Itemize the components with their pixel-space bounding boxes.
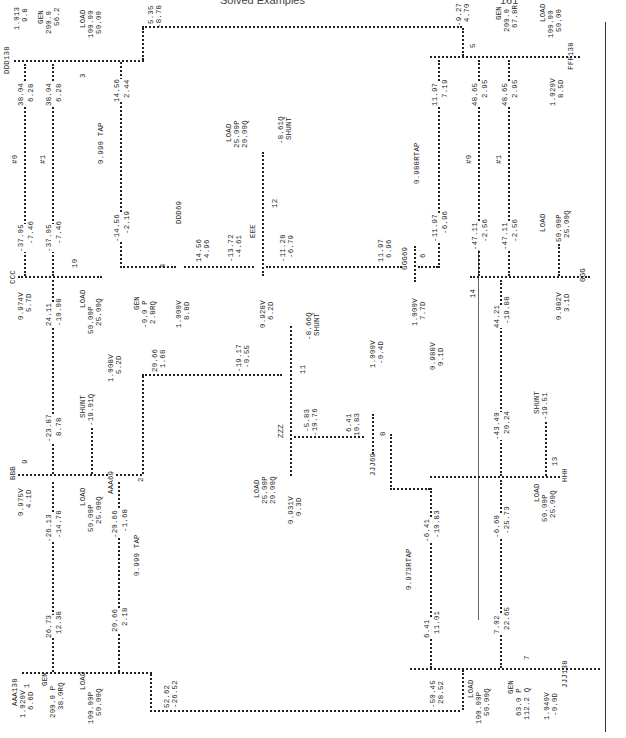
flow-jjj-hhh-p: 7.02 <box>494 615 502 634</box>
flow-zzz-aaa69-q: -0.55 <box>244 345 252 368</box>
shunt-bbb-q: -19.01Q <box>88 394 96 426</box>
bus-jjj138-name: JJJ138 <box>562 660 570 688</box>
load-ggg-line <box>558 244 562 276</box>
line-jjj69-rtap-h <box>390 434 394 490</box>
flow-ccc-bbb-p: 24.11 <box>46 303 54 326</box>
flow-ddd-ccc1-q: 6.28 <box>56 83 64 102</box>
flow-fff-ggg0-p: 48.65 <box>472 83 480 106</box>
bus-ddd138-no: 3 <box>80 73 88 78</box>
flow-hhh-jjj-p: -6.60 <box>494 515 502 538</box>
flow-eee-ggg-q: -6.79 <box>288 235 296 258</box>
bus-aaa138-no: 1 <box>24 683 32 688</box>
load-aaa-q: 50.00Q <box>96 688 104 716</box>
bus-jjj69-name: JJJ69 <box>370 453 378 476</box>
bus-ggg-angle: 3.1D <box>564 293 572 312</box>
flow-aaa-bbb-p: 26.73 <box>46 615 54 638</box>
flow-aaa69-tap-p: -20.66 <box>112 510 120 538</box>
flow-rtap-ggg-q: 7.19 <box>442 79 450 98</box>
flow-hhh-ggg-q: 20.24 <box>504 411 512 434</box>
bus-hhh-name: HHH <box>562 468 570 482</box>
line-ccc-ddd-1-tag: #1 <box>40 155 48 164</box>
bus-zzz-bar <box>290 326 294 476</box>
flow-ccc-ddd1-q: -7.46 <box>56 221 64 244</box>
bus-eee-name: EEE <box>250 224 258 238</box>
flow-ggg-fff0-q: -2.56 <box>482 219 490 242</box>
flow-fff-ddd-q: 4.70 <box>464 3 472 22</box>
line-jjj138-aaa-h <box>462 670 466 710</box>
load-aaa-label: LOAD <box>80 671 88 690</box>
bus-jjj138-no: 7 <box>524 655 532 660</box>
line-jjj69-rtap-v <box>390 486 430 490</box>
bus-ccc-name: CCC <box>10 270 18 284</box>
bus-aaa69-angle: 5.2D <box>116 355 124 374</box>
bus-jjj138-bar <box>410 666 600 670</box>
flow-ggg-fff1-p: -47.11 <box>502 222 510 250</box>
flow-aaa69-zzz-q: 1.68 <box>160 349 168 368</box>
flow-ddd69-eee-q: 4.96 <box>204 239 212 258</box>
flow-aaa69-tap-q: -1.68 <box>122 509 130 532</box>
flow-aaa-tap-q: 2.18 <box>122 607 130 626</box>
flow-ggg-hhh-q: -19.88 <box>504 296 512 324</box>
load-fff-q: 50.00 <box>556 9 564 32</box>
bus-hhh-no: 13 <box>552 457 560 466</box>
bus-aaa69-name: AAA69 <box>108 471 116 494</box>
line-ccc-ddd-0-tag: #0 <box>12 155 20 164</box>
line-ggg-fff-0-tag: #0 <box>466 155 474 164</box>
bus-ccc-bar <box>18 274 102 278</box>
flow-rtap-ggg-p: 11.97 <box>432 83 440 106</box>
bus-eee-no: 12 <box>272 199 280 208</box>
bus-ggg-name: GGG <box>580 268 588 282</box>
flow-ccc-bbb-q: -10.08 <box>56 298 64 326</box>
line-ddd69-eee <box>184 264 254 268</box>
bus-hhh-angle: 0.1D <box>438 347 446 366</box>
flow-jjj-rtap-p: 6.41 <box>424 619 432 638</box>
gen-jjj-q: 112.2 Q <box>524 688 532 720</box>
bus-aaa138-bar <box>22 670 152 674</box>
gen-aaa-q: 38.0RQ <box>58 682 66 710</box>
shunt-eee-label: SHUNT <box>286 117 294 140</box>
bus-bbb-angle: 4.1D <box>26 489 34 508</box>
bus-jjj69-no: 8 <box>380 431 388 436</box>
flow-aaa-bbb-q: 12.38 <box>56 611 64 634</box>
load-bbb-q: 25.00Q <box>96 496 104 524</box>
line-fff-ddd-h <box>462 28 466 56</box>
line-ddd-fff-v <box>142 24 462 28</box>
flow-ddd-ccc1-p: 38.04 <box>46 83 54 106</box>
tap-jjj-label: 0.973RTAP <box>406 548 414 590</box>
load-jjj-q: 50.00Q <box>484 688 492 716</box>
bus-aaa69-bar <box>116 472 142 476</box>
load-hhh-q: 25.00Q <box>550 490 558 518</box>
gen-ddd69-q: 2.8RQ <box>150 301 158 324</box>
flow-eee-ddd69-q: -4.61 <box>236 235 244 258</box>
flow-ddd-ddd69-q: 2.44 <box>124 79 132 98</box>
flow-rtap-jjj-q: -10.83 <box>434 510 442 538</box>
load-ggg-q: 25.00Q <box>564 210 572 238</box>
flow-jjj-zzz-q: 10.83 <box>354 413 362 436</box>
bus-ccc-angle: 5.7D <box>26 293 34 312</box>
bus-ggg69-name: GGG69 <box>402 247 410 270</box>
load-eee-q: 20.00Q <box>242 120 250 148</box>
flow-fff-ggg0-q: 2.95 <box>482 79 490 98</box>
flow-hhh-ggg-p: -43.40 <box>494 412 502 440</box>
shunt-bbb-line <box>91 428 95 474</box>
flow-ggg-eee-q: 6.96 <box>386 239 394 258</box>
flow-ccc-ddd1-p: -37.05 <box>46 224 54 252</box>
bus-ddd69-name: DDD69 <box>176 201 184 224</box>
flow-ggg-rtap-q: -6.96 <box>442 211 450 234</box>
line-ggg69-rtap <box>418 264 438 268</box>
power-flow-diagram: AAA138 1.020V 6.6D 1 GEN 200.0 P 38.0RQ … <box>0 0 626 738</box>
bus-jjj138-angle: -0.0D <box>552 693 560 716</box>
gen-fff-q: 67.8R <box>512 5 520 28</box>
bus-fff138-name: FFF138 <box>568 42 576 70</box>
flow-ddd69-ddd-p: -14.56 <box>114 214 122 242</box>
bus-zzz-no: 11 <box>300 365 308 374</box>
bus-ggg69-no: 6 <box>420 253 428 258</box>
load-ggg-label: LOAD <box>540 213 548 232</box>
bus-bbb-no: 9 <box>22 459 30 464</box>
load-ddd-q: 50.00 <box>96 11 104 34</box>
line-aaa69-zzz-v <box>142 372 282 376</box>
bus-ddd138-bar <box>14 58 144 62</box>
flow-bbb-ccc-q: 8.78 <box>56 417 64 436</box>
bus-jjj69-bar <box>372 414 376 454</box>
bus-ddd138-name: DDD138 <box>4 46 12 74</box>
